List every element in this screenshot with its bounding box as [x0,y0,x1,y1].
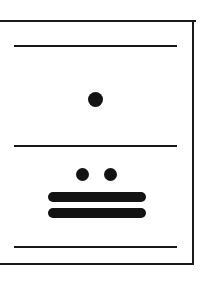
frame-top-border [0,20,196,22]
bar-upper [48,192,146,202]
dot-upper [88,92,103,107]
frame-right-border [192,20,194,265]
rule-middle [14,145,177,147]
glyph-plate: Mayan numeral glyph plate [0,0,208,281]
frame-bottom-border [0,263,194,265]
bar-lower [48,208,146,218]
dot-lower-right [104,168,117,181]
plate-title: Mayan numeral glyph plate [0,0,1,1]
rule-bottom [14,246,177,248]
rule-top [14,45,177,47]
dot-lower-left [76,168,89,181]
